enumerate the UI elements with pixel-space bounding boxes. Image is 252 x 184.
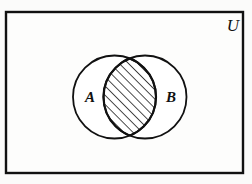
set-b-label: B — [165, 89, 176, 105]
universe-label: U — [227, 16, 241, 35]
venn-diagram-figure: A B U — [0, 0, 252, 184]
venn-diagram-canvas: A B U — [0, 0, 252, 184]
set-a-label: A — [84, 89, 95, 105]
